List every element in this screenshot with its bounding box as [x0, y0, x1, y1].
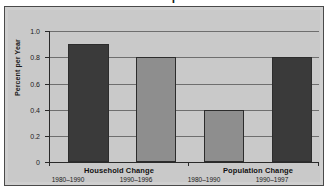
chart-panel-inner: Percent per Year 1.0 0.8: [8, 10, 320, 182]
y-tick-label-0.4: 0.4: [30, 107, 40, 114]
y-tick-0.6: 0.6: [45, 84, 49, 85]
bar-household-1980-1990: [68, 44, 109, 162]
bar-household-1990-1996: [136, 57, 176, 162]
y-tick-0.2: 0.2: [45, 136, 49, 137]
group-title-population-change: Population Change: [188, 166, 328, 175]
y-tick-1.0: 1.0: [45, 31, 49, 32]
bar-population-1990-1997: [272, 57, 312, 162]
group-title-household-change: Household Change: [49, 166, 189, 175]
y-axis-line: [49, 31, 50, 163]
y-tick-0.8: 0.8: [45, 57, 49, 58]
chart-figure: Household and Population Growth Percent …: [0, 0, 330, 190]
chart-panel-frame: Percent per Year 1.0 0.8: [4, 6, 324, 186]
y-tick-label-0.6: 0.6: [30, 81, 40, 88]
plot-area: 1.0 0.8 0.6 0.4 0.2 0: [49, 31, 319, 162]
y-axis-label: Percent per Year: [14, 39, 21, 96]
x-axis-line: [49, 162, 319, 163]
y-tick-label-1.0: 1.0: [30, 28, 40, 35]
y-tick-label-0: 0: [36, 159, 40, 166]
bar-population-1980-1990: [204, 110, 244, 162]
chart-title: Household and Population Growth: [0, 0, 330, 3]
y-tick-label-0.2: 0.2: [30, 133, 40, 140]
period-label-population-1990-1997: 1990–1997: [232, 176, 312, 183]
y-tick-label-0.8: 0.8: [30, 54, 40, 61]
gridline-1.0: [49, 31, 319, 32]
y-tick-0.4: 0.4: [45, 110, 49, 111]
